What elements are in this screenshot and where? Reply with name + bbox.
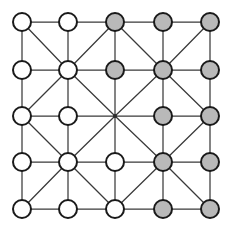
graph-node-r2c1[interactable] (13, 61, 31, 79)
graph-node-r5c4[interactable] (154, 200, 172, 218)
graph-node-r5c2[interactable] (59, 200, 77, 218)
diagonal-edge (115, 22, 163, 70)
graph-node-r4c1[interactable] (13, 153, 31, 171)
lattice-graph-diagram (0, 0, 236, 231)
graph-node-r2c3[interactable] (106, 61, 124, 79)
graph-node-r1c5[interactable] (201, 13, 219, 31)
graph-node-r5c5[interactable] (201, 200, 219, 218)
graph-node-r2c2[interactable] (59, 61, 77, 79)
graph-node-r4c3[interactable] (106, 153, 124, 171)
diagonal-edge (163, 22, 210, 70)
graph-node-r3c5[interactable] (201, 107, 219, 125)
diagonal-edge (68, 22, 115, 70)
graph-node-r2c4[interactable] (154, 61, 172, 79)
graph-canvas (0, 0, 236, 231)
graph-node-r1c2[interactable] (59, 13, 77, 31)
graph-node-r5c1[interactable] (13, 200, 31, 218)
graph-node-r3c1[interactable] (13, 107, 31, 125)
graph-node-r4c5[interactable] (201, 153, 219, 171)
graph-junction-r3c3[interactable] (113, 114, 117, 118)
graph-node-r1c4[interactable] (154, 13, 172, 31)
graph-node-r4c4[interactable] (154, 153, 172, 171)
graph-node-r4c2[interactable] (59, 153, 77, 171)
graph-node-r1c1[interactable] (13, 13, 31, 31)
diagonal-edge (115, 162, 163, 209)
graph-node-r5c3[interactable] (106, 200, 124, 218)
graph-node-r1c3[interactable] (106, 13, 124, 31)
graph-node-r3c2[interactable] (59, 107, 77, 125)
graph-node-r3c4[interactable] (154, 107, 172, 125)
graph-node-r2c5[interactable] (201, 61, 219, 79)
